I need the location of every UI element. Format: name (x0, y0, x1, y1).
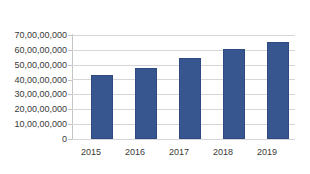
x-axis-label-2015: 2015 (69, 148, 113, 157)
bar-2017 (179, 58, 201, 139)
bar-2018 (223, 49, 245, 139)
y-axis-label-1: 10,00,00,000 (0, 120, 67, 129)
x-axis-label-2017: 2017 (157, 148, 201, 157)
bar-2019 (267, 42, 289, 139)
y-axis-label-2: 20,00,00,000 (0, 105, 67, 114)
x-axis-label-2018: 2018 (201, 148, 245, 157)
y-axis-label-0: 0 (0, 135, 67, 144)
y-axis-label-5: 50,00,00,000 (0, 61, 67, 70)
y-axis-label-4: 40,00,00,000 (0, 76, 67, 85)
plot-area (72, 35, 295, 139)
y-axis-label-6: 60,00,00,000 (0, 46, 67, 55)
gridline-70cr (72, 35, 295, 36)
bar-chart: 70,00,00,000 60,00,00,000 50,00,00,000 4… (0, 0, 310, 174)
y-axis-label-3: 30,00,00,000 (0, 90, 67, 99)
x-axis-label-2016: 2016 (113, 148, 157, 157)
bar-2015 (91, 75, 113, 139)
gridline-0 (72, 139, 295, 140)
x-axis-label-2019: 2019 (245, 148, 289, 157)
gridline-60cr (72, 50, 295, 51)
bar-2016 (135, 68, 157, 139)
y-axis-label-7: 70,00,00,000 (0, 31, 67, 40)
